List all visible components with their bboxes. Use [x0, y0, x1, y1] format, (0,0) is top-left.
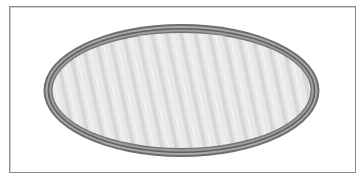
- ellipse-figure: [0, 0, 363, 177]
- ellipse-shape: [44, 24, 320, 157]
